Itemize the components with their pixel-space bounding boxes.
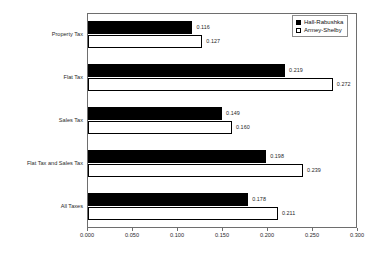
x-axis-tick [312, 228, 313, 231]
x-axis-tick [222, 228, 223, 231]
legend-item-armey-shelby: Armey-Shelby [296, 26, 343, 34]
bar-value-label: 0.272 [337, 82, 351, 87]
x-axis-tick-label: 0.200 [260, 233, 274, 239]
bar-rect [88, 193, 248, 206]
legend-swatch-hollow-icon [296, 28, 301, 33]
bar-rect [88, 21, 192, 34]
legend-item-hall-rabushka: Hall-Rabushka [296, 18, 343, 26]
bar-rect [88, 150, 266, 163]
bar-rect [88, 164, 303, 177]
bar-value-label: 0.211 [282, 211, 295, 216]
x-axis-tick-label: 0.000 [80, 233, 94, 239]
bar-group: 0.1980.239 [88, 143, 356, 186]
chart-legend: Hall-Rabushka Armey-Shelby [292, 15, 348, 37]
category-label: Property Tax [52, 13, 83, 56]
x-axis-tick [132, 228, 133, 231]
bar-rect [88, 207, 278, 220]
bar-group: 0.1490.160 [88, 100, 356, 143]
bar-group: 0.1780.211 [88, 186, 356, 229]
category-label: All Taxes [61, 185, 83, 228]
category-label: Flat Tax and Sales Tax [27, 142, 83, 185]
x-axis-tick-label: 0.150 [215, 233, 229, 239]
x-axis-tick [267, 228, 268, 231]
bar-chart: Property TaxFlat TaxSales TaxFlat Tax an… [0, 0, 381, 260]
bar-value-label: 0.219 [289, 68, 303, 73]
category-label: Flat Tax [64, 56, 83, 99]
bar-rect [88, 64, 285, 77]
bar-group: 0.2190.272 [88, 57, 356, 100]
x-axis-tick-label: 0.050 [125, 233, 139, 239]
legend-label: Hall-Rabushka [304, 19, 343, 25]
plot-area: 0.1160.1270.2190.2720.1490.1600.1980.239… [87, 13, 357, 228]
legend-swatch-solid-icon [296, 20, 301, 25]
bar-rect [88, 35, 202, 48]
legend-label: Armey-Shelby [304, 27, 342, 33]
category-label: Sales Tax [59, 99, 83, 142]
bar-rect [88, 78, 333, 91]
bar-value-label: 0.160 [236, 125, 250, 130]
bar-value-label: 0.116 [196, 25, 209, 30]
bar-value-label: 0.239 [307, 168, 321, 173]
x-axis-tick-label: 0.100 [170, 233, 184, 239]
bar-value-label: 0.149 [226, 111, 240, 116]
bar-rect [88, 107, 222, 120]
value-axis: 0.0000.0500.1000.1500.2000.2500.300 [87, 228, 357, 250]
x-axis-tick-label: 0.300 [350, 233, 364, 239]
x-axis-tick [87, 228, 88, 231]
bar-value-label: 0.127 [206, 39, 220, 44]
x-axis-tick [357, 228, 358, 231]
bar-value-label: 0.198 [270, 154, 284, 159]
bar-value-label: 0.178 [252, 197, 266, 202]
x-axis-tick-label: 0.250 [305, 233, 319, 239]
x-axis-tick [177, 228, 178, 231]
category-axis: Property TaxFlat TaxSales TaxFlat Tax an… [0, 13, 87, 228]
bar-rect [88, 121, 232, 134]
